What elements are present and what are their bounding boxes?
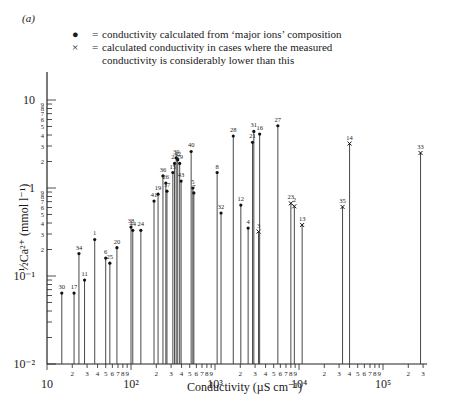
data-point-25: 25: [107, 253, 114, 364]
x-minor-tick-label: 4: [348, 370, 352, 378]
data-point-15: 15: [170, 163, 177, 364]
dot-marker-icon: [156, 193, 159, 196]
x-minor-tick-label: 4: [264, 370, 268, 378]
point-label: 24: [138, 220, 145, 227]
data-point-39: 39: [173, 148, 180, 364]
point-label: 25: [107, 253, 114, 260]
x-minor-tick-label: 3: [337, 370, 341, 378]
x-minor-tick-label: 3: [421, 370, 425, 378]
point-label: 34: [76, 244, 83, 251]
x-minor-tick-label: 2: [71, 370, 75, 378]
data-point-43: 43: [178, 171, 185, 364]
data-point-12: 12: [238, 195, 245, 364]
x-minor-tick-label: 2: [239, 370, 243, 378]
dot-marker-icon: [108, 262, 111, 265]
x-minor-tick-label: 3: [253, 370, 257, 378]
data-point-24: 24: [138, 220, 145, 364]
x-minor-tick-label: 6: [363, 370, 367, 378]
y-minor-tick-label: 5: [41, 123, 44, 130]
dot-marker-icon: [173, 162, 176, 165]
data-point-19: 19: [155, 184, 162, 364]
point-label: 13: [299, 215, 306, 222]
dot-marker-icon: [216, 171, 219, 174]
x-axis-label: Conductivity (µS cm⁻¹): [0, 380, 449, 395]
point-label: 1: [93, 229, 96, 236]
data-point-11: 11: [81, 270, 87, 364]
dot-marker-icon: [180, 179, 183, 182]
point-label: 8: [216, 163, 219, 170]
data-point-17: 17: [71, 283, 78, 364]
x-minor-tick-label: 3: [85, 370, 89, 378]
y-minor-tick-label: 9: [41, 189, 44, 196]
dot-marker-icon: [139, 229, 142, 232]
dot-marker-icon: [77, 252, 80, 255]
y-minor-tick-label: 5: [41, 211, 44, 218]
point-label: 37: [164, 181, 171, 188]
y-minor-tick-label: 3: [41, 143, 44, 150]
point-label: 35: [339, 197, 346, 204]
y-minor-tick-label: 4: [41, 132, 45, 139]
point-label: 36: [160, 166, 167, 173]
point-label: 12: [238, 195, 245, 202]
y-minor-tick-label: 2: [41, 246, 44, 253]
point-label: 44: [130, 220, 137, 227]
point-label: 2: [293, 196, 296, 203]
y-minor-tick-label: 2: [41, 158, 44, 165]
x-minor-tick-label: 3: [169, 370, 173, 378]
point-label: 11: [81, 270, 87, 277]
data-point-28: 28: [230, 126, 237, 364]
data-point-34: 34: [76, 244, 83, 364]
x-minor-tick-label: 2: [155, 370, 159, 378]
x-minor-tick-label: 5: [188, 370, 192, 378]
dot-marker-icon: [192, 191, 195, 194]
x-minor-tick-label: 5: [272, 370, 276, 378]
point-label: 4: [247, 218, 251, 225]
y-minor-tick-label: 4: [41, 220, 45, 227]
y-major-tick-label: 10: [23, 93, 35, 107]
point-label: 30: [59, 283, 66, 290]
x-minor-tick-label: 7: [200, 370, 204, 378]
dot-marker-icon: [247, 227, 250, 230]
data-point-14: 14: [346, 134, 353, 364]
data-point-23: 23: [288, 193, 295, 364]
dot-marker-icon: [276, 124, 279, 127]
point-label: 19: [155, 184, 162, 191]
point-label: 32: [218, 203, 225, 210]
point-label: 40: [188, 141, 195, 148]
point-label: 17: [71, 283, 78, 290]
data-point-37: 37: [164, 181, 171, 364]
x-minor-tick-label: 4: [96, 370, 100, 378]
point-label: 26: [163, 173, 170, 180]
dot-marker-icon: [219, 211, 222, 214]
dot-marker-icon: [252, 130, 255, 133]
x-minor-tick-label: 2: [323, 370, 327, 378]
data-point-1: 1: [93, 229, 96, 364]
point-label: 41: [151, 191, 158, 198]
point-label: 16: [256, 124, 263, 131]
data-point-21: 21: [249, 132, 256, 364]
dot-marker-icon: [131, 229, 134, 232]
x-minor-tick-label: 5: [104, 370, 108, 378]
data-point-2: 2: [292, 196, 296, 364]
data-point-30: 30: [59, 283, 66, 364]
x-minor-tick-label: 7: [368, 370, 372, 378]
data-point-26: 26: [163, 173, 170, 364]
dot-marker-icon: [115, 246, 118, 249]
data-point-35: 35: [339, 197, 346, 364]
data-point-38: 38: [128, 217, 135, 364]
point-label: 28: [230, 126, 237, 133]
data-point-20: 20: [114, 238, 121, 364]
dot-marker-icon: [60, 291, 63, 294]
y-minor-tick-label: 3: [41, 231, 44, 238]
data-point-13: 13: [299, 215, 306, 364]
point-label: 27: [275, 116, 282, 123]
dot-marker-icon: [232, 134, 235, 137]
x-minor-tick-label: 5: [356, 370, 360, 378]
x-minor-tick-label: 6: [195, 370, 199, 378]
dot-marker-icon: [83, 278, 86, 281]
data-point-27: 27: [275, 116, 282, 364]
point-label: 43: [178, 171, 185, 178]
y-axis-label: ½Ca²⁺ (mmol l⁻¹): [17, 168, 32, 288]
data-point-31: 31: [251, 121, 258, 364]
x-minor-tick-label: 2: [407, 370, 411, 378]
